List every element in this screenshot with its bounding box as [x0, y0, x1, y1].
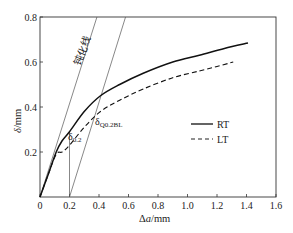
series-lt: [40, 62, 233, 197]
chart-svg: 00.20.40.60.81.01.21.41.60.20.40.60.8 钝化…: [0, 0, 293, 233]
x-tick-label: 1.6: [270, 200, 283, 211]
blunting-line-label: 钝化线: [71, 34, 93, 66]
legend: RT LT: [191, 119, 229, 145]
x-tick-label: 0.2: [63, 200, 76, 211]
axes: 00.20.40.60.81.01.21.41.60.20.40.60.8: [25, 12, 283, 212]
legend-lt-label: LT: [217, 134, 228, 145]
y-tick-label: 0.8: [25, 12, 38, 23]
x-tick-label: 0: [38, 200, 43, 211]
x-axis-label: Δa/mm: [139, 213, 170, 224]
y-axis-label: δ/mm: [12, 109, 23, 133]
x-tick-label: 0.6: [122, 200, 135, 211]
delta-q02bl-annotation: δQ0.2BL: [95, 116, 122, 129]
y-tick-label: 0.6: [25, 57, 38, 68]
y-tick-label: 0.2: [25, 147, 38, 158]
x-tick-label: 0.4: [93, 200, 106, 211]
legend-rt-label: RT: [217, 119, 229, 130]
x-tick-label: 1.4: [240, 200, 253, 211]
delta-02-annotation: δ0.2: [68, 131, 82, 144]
y-tick-label: 0.4: [25, 102, 38, 113]
reference-line: [70, 17, 126, 197]
x-tick-label: 0.8: [152, 200, 165, 211]
x-tick-label: 1.0: [181, 200, 194, 211]
x-tick-label: 1.2: [211, 200, 224, 211]
